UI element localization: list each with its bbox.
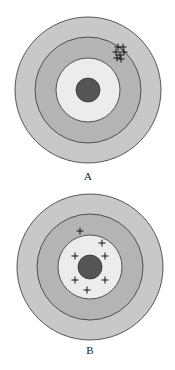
target-a	[15, 17, 161, 163]
targets-figure	[0, 0, 175, 370]
bullseye	[76, 78, 100, 102]
target-b	[17, 194, 163, 340]
bullseye	[78, 255, 102, 279]
target-a-label: A	[78, 170, 98, 182]
target-b-label: B	[80, 344, 100, 356]
